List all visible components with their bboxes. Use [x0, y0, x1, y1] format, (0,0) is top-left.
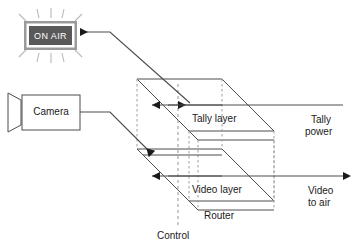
- tally-power-label-line2: power: [305, 126, 332, 137]
- tally-layer-label: Tally layer: [192, 113, 236, 124]
- camera-feed-line: [80, 112, 152, 154]
- router-label: Router: [204, 210, 234, 221]
- control-label: Control: [157, 230, 189, 241]
- video-layer-label: Video layer: [192, 184, 242, 195]
- video-out-label-line2: to air: [308, 197, 330, 208]
- video-out-label-line1: Video: [308, 185, 333, 196]
- on-air-label: ON AIR: [33, 31, 68, 41]
- camera-label: Camera: [22, 106, 80, 117]
- router-video-layer: [137, 149, 274, 210]
- arrow-down-left-icon: [80, 112, 152, 154]
- camera-lens-icon: [8, 93, 21, 132]
- diagram-canvas: ON AIR Camera Tally layer Video layer Ro…: [0, 0, 354, 248]
- tally-power-label-line1: Tally: [311, 114, 331, 125]
